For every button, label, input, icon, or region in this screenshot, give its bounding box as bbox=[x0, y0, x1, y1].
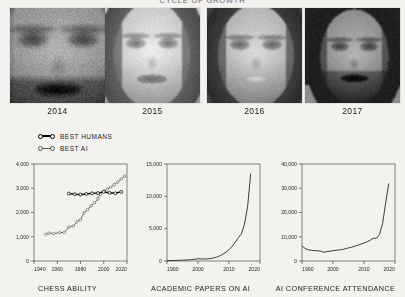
y-tick-label: 0 bbox=[159, 258, 162, 264]
data-point bbox=[90, 205, 93, 208]
data-point bbox=[44, 233, 47, 236]
data-point bbox=[86, 208, 89, 211]
face-cell-2015 bbox=[105, 8, 200, 103]
chart-caption-chess-ability: CHESS ABILITY bbox=[0, 284, 135, 293]
charts-row: 01,0002,0003,0004,0001940196019802000202… bbox=[0, 156, 405, 297]
y-tick-label: 0 bbox=[294, 258, 297, 264]
data-point bbox=[106, 188, 109, 191]
chart-chess-ability: 01,0002,0003,0004,0001940196019802000202… bbox=[0, 156, 135, 297]
y-tick-label: 40,000 bbox=[281, 161, 297, 167]
legend-label: BEST AI bbox=[60, 145, 88, 152]
data-point bbox=[73, 193, 76, 196]
legend-marker-icon bbox=[38, 132, 55, 140]
data-point bbox=[120, 178, 123, 181]
data-point bbox=[76, 220, 79, 223]
x-tick-label: 2000 bbox=[327, 266, 339, 272]
data-point bbox=[79, 193, 82, 196]
y-tick-label: 3,000 bbox=[16, 185, 29, 191]
data-point bbox=[58, 231, 61, 234]
chart-ai-conference-attendance: 010,00020,00030,00040,000199020002010202… bbox=[268, 156, 403, 297]
chart-legend: BEST HUMANSBEST AI bbox=[38, 131, 112, 155]
y-tick-label: 0 bbox=[26, 258, 29, 264]
x-tick-label: 1990 bbox=[167, 266, 179, 272]
x-tick-label: 1980 bbox=[75, 266, 87, 272]
x-tick-label: 2000 bbox=[192, 266, 204, 272]
data-point bbox=[72, 225, 75, 228]
y-tick-label: 2,000 bbox=[16, 209, 29, 215]
plot-frame bbox=[167, 164, 260, 261]
face-cell-2014 bbox=[10, 8, 105, 103]
data-point bbox=[108, 191, 111, 194]
x-tick-label: 1990 bbox=[302, 266, 314, 272]
y-tick-label: 20,000 bbox=[281, 209, 297, 215]
generated-face-image-2016 bbox=[207, 8, 302, 103]
y-tick-label: 5,000 bbox=[149, 225, 162, 231]
data-point bbox=[120, 190, 123, 193]
data-point bbox=[83, 212, 86, 215]
faces-year-row: 2014201520162017 bbox=[0, 106, 405, 120]
legend-marker-icon bbox=[38, 144, 55, 152]
chart-academic-papers-on-ai: 05,00010,00015,0001990200020102020ACADEM… bbox=[133, 156, 268, 297]
data-point bbox=[123, 175, 126, 178]
y-tick-label: 10,000 bbox=[281, 234, 297, 240]
plot-frame bbox=[34, 164, 127, 261]
legend-item-best-ai: BEST AI bbox=[38, 143, 112, 153]
series-line-best-humans bbox=[69, 192, 121, 195]
series-line-academic-papers-on-ai bbox=[167, 174, 251, 261]
data-point bbox=[116, 181, 119, 184]
x-tick-label: 2020 bbox=[115, 266, 127, 272]
x-tick-label: 2020 bbox=[383, 266, 395, 272]
data-point bbox=[109, 186, 112, 189]
face-year-label-2014: 2014 bbox=[10, 106, 105, 116]
infographic-page: CYCLE OF GROWTH 2014201520162017 BEST HU… bbox=[0, 0, 405, 297]
x-tick-label: 1960 bbox=[51, 266, 63, 272]
x-tick-label: 2020 bbox=[248, 266, 260, 272]
data-point bbox=[67, 192, 70, 195]
x-tick-label: 1940 bbox=[34, 266, 46, 272]
x-tick-label: 2010 bbox=[358, 266, 370, 272]
series-line-ai-conference-attendance bbox=[302, 183, 389, 252]
y-tick-label: 15,000 bbox=[146, 161, 162, 167]
face-year-label-2016: 2016 bbox=[207, 106, 302, 116]
generated-face-image-2014 bbox=[10, 8, 105, 103]
data-point bbox=[93, 202, 96, 205]
data-point bbox=[48, 232, 51, 235]
page-title: CYCLE OF GROWTH bbox=[0, 0, 405, 5]
chart-caption-academic-papers-on-ai: ACADEMIC PAPERS ON AI bbox=[133, 284, 268, 293]
y-tick-label: 10,000 bbox=[146, 193, 162, 199]
faces-strip bbox=[0, 8, 405, 103]
data-point bbox=[52, 232, 55, 235]
legend-label: BEST HUMANS bbox=[60, 133, 112, 140]
data-point bbox=[97, 198, 100, 201]
data-point bbox=[85, 192, 88, 195]
face-year-label-2015: 2015 bbox=[105, 106, 200, 116]
data-point bbox=[114, 192, 117, 195]
data-point bbox=[113, 183, 116, 186]
data-point bbox=[96, 192, 99, 195]
face-year-label-2017: 2017 bbox=[305, 106, 400, 116]
plot-frame bbox=[302, 164, 395, 261]
face-cell-2017 bbox=[305, 8, 400, 103]
face-cell-2016 bbox=[207, 8, 302, 103]
data-point bbox=[63, 231, 66, 234]
generated-face-image-2017 bbox=[305, 8, 400, 103]
y-tick-label: 4,000 bbox=[16, 161, 29, 167]
data-point bbox=[68, 226, 71, 229]
legend-item-best-humans: BEST HUMANS bbox=[38, 131, 112, 141]
x-tick-label: 2000 bbox=[98, 266, 110, 272]
data-point bbox=[79, 218, 82, 221]
generated-face-image-2015 bbox=[105, 8, 200, 103]
y-tick-label: 1,000 bbox=[16, 234, 29, 240]
x-tick-label: 2010 bbox=[223, 266, 235, 272]
chart-caption-ai-conference-attendance: AI CONFERENCE ATTENDANCE bbox=[268, 284, 403, 293]
data-point bbox=[102, 190, 105, 193]
y-tick-label: 30,000 bbox=[281, 185, 297, 191]
data-point bbox=[91, 192, 94, 195]
